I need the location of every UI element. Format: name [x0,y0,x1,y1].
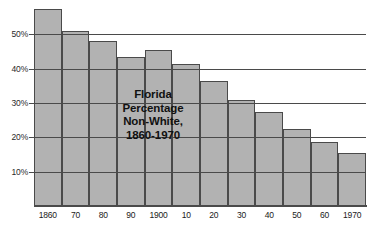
bar [62,31,90,206]
bar [228,100,256,206]
bar [283,129,311,206]
y-axis-tick-label: 10% [12,167,28,177]
chart-title-line: 1860-1970 [100,129,206,143]
bar [311,142,339,206]
bar [34,9,62,206]
chart-title-line: Percentage [100,102,206,116]
bar [255,112,283,206]
x-axis-tick-label: 1970 [338,210,366,220]
y-axis-tick: 30% [0,98,28,108]
y-axis-tick: 40% [0,64,28,74]
x-axis-tick-label: 60 [311,210,339,220]
y-axis-tick-label: 40% [12,64,28,74]
gridline [34,172,366,173]
x-axis-tick-label: 1900 [145,210,173,220]
x-axis-tick-label: 40 [255,210,283,220]
x-axis-tick-label: 80 [89,210,117,220]
x-axis-tick-label: 10 [172,210,200,220]
x-axis-tick-label: 1860 [34,210,62,220]
y-axis-tick-label: 30% [12,98,28,108]
y-axis-tick-label: 20% [12,132,28,142]
gridline [34,34,366,35]
y-axis-tick: 20% [0,132,28,142]
chart-title: FloridaPercentageNon-White,1860-1970 [100,88,206,142]
x-axis-tick-label: 70 [62,210,90,220]
x-axis-tick-label: 20 [200,210,228,220]
x-axis-tick-label: 50 [283,210,311,220]
gridline [34,69,366,70]
chart-title-line: Non-White, [100,115,206,129]
y-axis-tick: 10% [0,167,28,177]
x-axis-tick-label: 30 [228,210,256,220]
y-axis-tick-label: 50% [12,29,28,39]
bar [338,153,366,206]
y-axis-tick: 50% [0,29,28,39]
bar-chart: 10%20%30%40%50% 186070809019001020304050… [0,0,382,235]
x-axis-tick-label: 90 [117,210,145,220]
chart-title-line: Florida [100,88,206,102]
